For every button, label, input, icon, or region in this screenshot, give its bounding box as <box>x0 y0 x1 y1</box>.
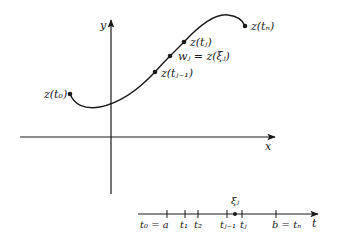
label-w-j: wⱼ = z(ξⱼ) <box>178 51 230 62</box>
label-t0: t₀ = a <box>140 220 169 230</box>
label-t2: t₂ <box>194 220 202 230</box>
point-z-t0 <box>68 92 73 97</box>
x-axis-label: x <box>265 141 271 152</box>
label-z-tn: z(tₙ) <box>251 21 274 32</box>
label-z-tj-minus-1: z(tⱼ₋₁) <box>161 68 193 79</box>
point-z-tn <box>243 24 248 29</box>
point-z-tj <box>182 40 187 45</box>
label-xi-j: ξⱼ <box>231 196 239 206</box>
label-z-t0: z(t₀) <box>44 89 67 100</box>
label-z-tj: z(tⱼ) <box>190 37 212 48</box>
diagram-canvas <box>0 0 337 243</box>
label-tn: b = tₙ <box>272 220 301 230</box>
label-tj-minus-1: tⱼ₋₁ <box>220 220 236 230</box>
point-z-tj-minus-1 <box>153 70 158 75</box>
label-tj: tⱼ <box>240 220 247 230</box>
label-t1: t₁ <box>180 220 188 230</box>
point-xi-j <box>233 212 237 216</box>
point-w-j <box>168 54 173 59</box>
t-axis-label: t <box>312 218 316 229</box>
y-axis-label: y <box>100 20 106 31</box>
